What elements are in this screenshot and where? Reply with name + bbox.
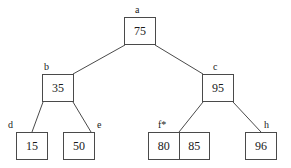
- node-label-h: h: [264, 120, 269, 130]
- tree-node-a[interactable]: 75: [124, 17, 156, 45]
- tree-node-h[interactable]: 96: [245, 132, 277, 160]
- node-value-e-0: 50: [64, 133, 94, 159]
- node-label-d: d: [8, 120, 13, 130]
- node-value-a-0: 75: [125, 18, 155, 44]
- node-value-f-0: 80: [149, 133, 179, 159]
- node-label-c: c: [213, 62, 217, 72]
- node-label-a: a: [135, 5, 139, 15]
- tree-node-e[interactable]: 50: [63, 132, 95, 160]
- node-value-f-1: 85: [179, 133, 210, 159]
- tree-edge-b-d: [32, 102, 43, 132]
- tree-node-d[interactable]: 15: [16, 132, 48, 160]
- tree-edge-c-h: [233, 102, 261, 132]
- tree-node-b[interactable]: 35: [42, 74, 74, 102]
- tree-edge-a-b: [73, 45, 125, 74]
- node-value-h-0: 96: [246, 133, 276, 159]
- tree-node-f[interactable]: 8085: [148, 132, 210, 160]
- tree-edge-a-c: [155, 45, 203, 74]
- tree-diagram: a75b35c95d15e50f*8085h96: [0, 0, 291, 168]
- node-label-b: b: [44, 62, 49, 72]
- node-label-e: e: [97, 120, 101, 130]
- node-value-b-0: 35: [43, 75, 73, 101]
- tree-edge-b-e: [73, 102, 91, 132]
- tree-edge-c-f: [179, 102, 203, 132]
- tree-node-c[interactable]: 95: [202, 74, 234, 102]
- node-label-f: f*: [158, 120, 166, 130]
- node-value-d-0: 15: [17, 133, 47, 159]
- node-value-c-0: 95: [203, 75, 233, 101]
